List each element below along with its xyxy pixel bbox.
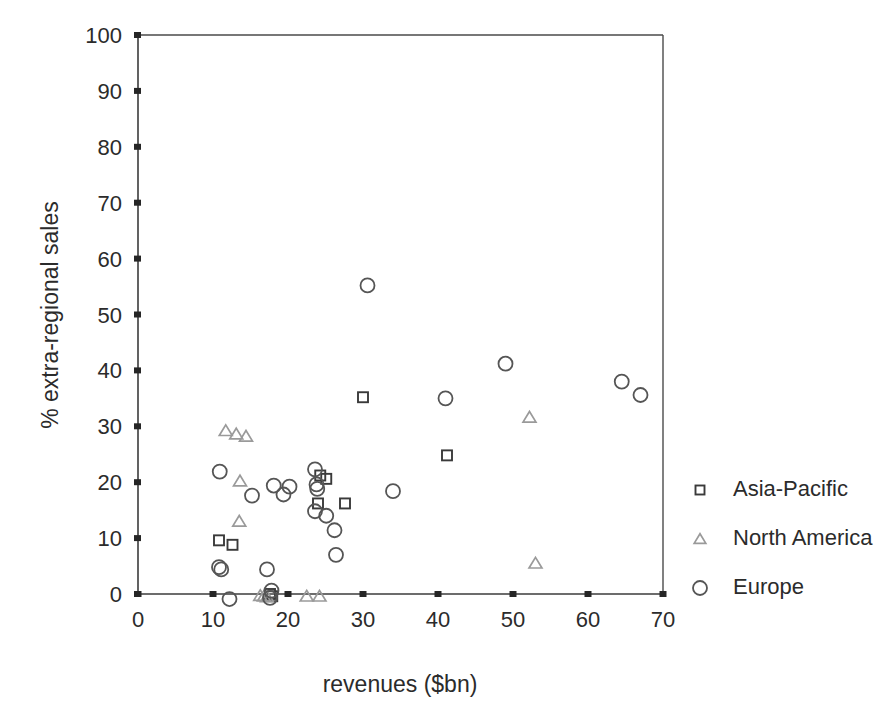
y-tick-mark [134, 367, 141, 373]
y-tick-mark [134, 256, 141, 262]
data-point [615, 375, 629, 389]
legend-label: Europe [733, 574, 804, 599]
data-point [358, 392, 368, 402]
data-point [228, 540, 238, 550]
data-point [523, 411, 536, 422]
series-asia-pacific [214, 392, 452, 601]
legend-label: Asia-Pacific [733, 476, 848, 501]
y-tick-mark [134, 312, 141, 318]
y-tick-label: 20 [98, 470, 122, 495]
x-axis-title: revenues ($bn) [323, 671, 478, 697]
x-axis-ticks: 010203040506070 [132, 591, 675, 632]
x-tick-label: 40 [426, 607, 450, 632]
data-point [361, 278, 375, 292]
y-tick-mark [134, 535, 141, 541]
y-tick-label: 100 [85, 23, 122, 48]
data-point [213, 465, 227, 479]
y-tick-mark [134, 423, 141, 429]
data-point [219, 425, 232, 436]
data-point [499, 357, 513, 371]
y-tick-mark [134, 32, 141, 38]
data-point [634, 388, 648, 402]
legend-item-europe[interactable]: Europe [693, 574, 804, 599]
y-tick-label: 70 [98, 191, 122, 216]
data-point [233, 515, 246, 526]
x-tick-mark [285, 591, 292, 597]
y-tick-mark [134, 479, 141, 485]
triangle-marker-icon [694, 534, 706, 544]
data-point [439, 391, 453, 405]
y-tick-mark [134, 200, 141, 206]
x-tick-label: 10 [201, 607, 225, 632]
square-marker-icon [696, 486, 705, 495]
x-tick-label: 20 [276, 607, 300, 632]
data-point [300, 590, 313, 601]
x-tick-label: 60 [576, 607, 600, 632]
data-point [260, 562, 274, 576]
data-point [245, 489, 259, 503]
data-point [328, 523, 342, 537]
data-point [386, 484, 400, 498]
data-point [442, 450, 452, 460]
y-tick-label: 60 [98, 247, 122, 272]
legend-label: North America [733, 525, 873, 550]
series-europe [212, 278, 648, 606]
x-tick-label: 0 [132, 607, 144, 632]
x-tick-mark [435, 591, 442, 597]
y-tick-mark [134, 88, 141, 94]
y-axis-title: % extra-regional sales [37, 201, 63, 429]
data-point [214, 535, 224, 545]
y-tick-label: 40 [98, 358, 122, 383]
x-tick-mark [660, 591, 667, 597]
legend-item-north-america[interactable]: North America [694, 525, 873, 550]
data-point [234, 475, 247, 486]
x-tick-mark [510, 591, 517, 597]
plot-frame [138, 35, 663, 594]
chart-legend: Asia-PacificNorth AmericaEurope [693, 476, 873, 599]
x-tick-mark [210, 591, 217, 597]
series-north-america [219, 411, 542, 601]
y-tick-label: 90 [98, 79, 122, 104]
y-tick-label: 10 [98, 526, 122, 551]
x-tick-label: 50 [501, 607, 525, 632]
data-point [329, 548, 343, 562]
scatter-plot: 0102030405060708090100 010203040506070 A… [0, 0, 893, 728]
x-tick-label: 30 [351, 607, 375, 632]
y-tick-label: 80 [98, 135, 122, 160]
data-point [313, 590, 326, 601]
y-tick-label: 30 [98, 414, 122, 439]
data-points [212, 278, 648, 606]
y-tick-label: 50 [98, 303, 122, 328]
chart-page: 0102030405060708090100 010203040506070 A… [0, 0, 893, 728]
x-tick-label: 70 [651, 607, 675, 632]
legend-item-asia-pacific[interactable]: Asia-Pacific [696, 476, 848, 501]
circle-marker-icon [693, 581, 707, 595]
x-tick-mark [360, 591, 367, 597]
y-axis-ticks: 0102030405060708090100 [85, 23, 141, 607]
y-tick-label: 0 [110, 582, 122, 607]
y-tick-mark [134, 144, 141, 150]
x-tick-mark [585, 591, 592, 597]
data-point [529, 557, 542, 568]
data-point [340, 498, 350, 508]
x-tick-mark [135, 591, 142, 597]
